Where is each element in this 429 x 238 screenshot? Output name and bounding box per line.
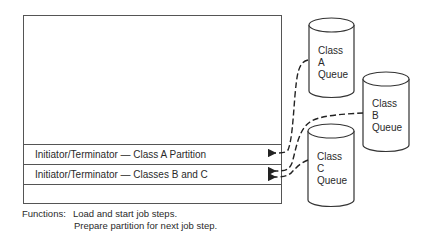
- diagram-overlay: [0, 0, 429, 238]
- functions-note: Functions:Load and start job steps. Prep…: [22, 208, 217, 232]
- functions-label: Functions:: [22, 208, 73, 220]
- functions-line-1: Load and start job steps.: [73, 208, 177, 219]
- queue-label-a: ClassAQueue: [318, 45, 348, 81]
- connector-queue-a: [275, 60, 308, 153]
- queue-label-b: ClassBQueue: [372, 98, 402, 134]
- queue-label-c: ClassCQueue: [317, 151, 347, 187]
- functions-line-2: Prepare partition for next job step.: [22, 220, 217, 232]
